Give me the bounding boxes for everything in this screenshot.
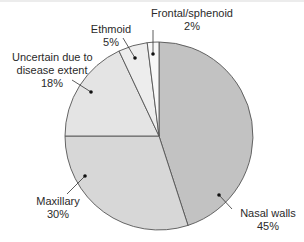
label-nasal-walls: Nasal walls 45% — [232, 207, 304, 233]
label-ethmoid: Ethmoid 5% — [88, 23, 134, 49]
label-uncertain: Uncertain due to disease extent 18% — [12, 51, 92, 90]
label-maxillary: Maxillary 30% — [33, 195, 83, 221]
label-frontal-sphenoid: Frontal/sphenoid 2% — [143, 7, 241, 33]
